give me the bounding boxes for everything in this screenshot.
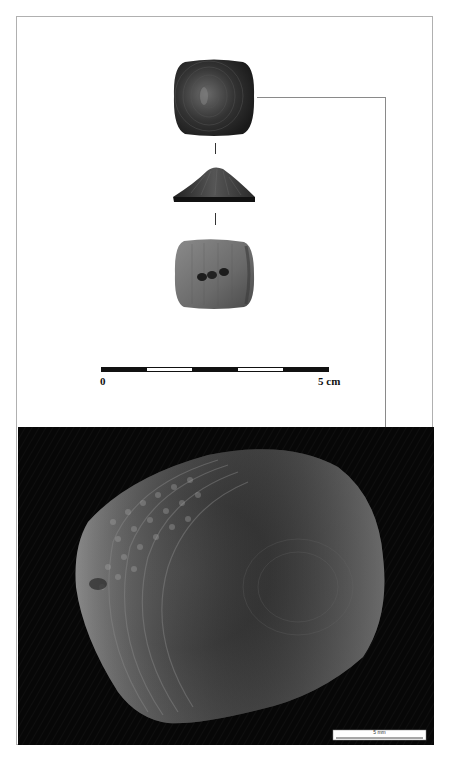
scale-segment bbox=[238, 367, 284, 372]
artefact-top-view bbox=[171, 58, 257, 138]
view-separator-tick bbox=[215, 213, 216, 225]
micrograph-image bbox=[18, 427, 434, 745]
artefact-micrograph: 5 mm bbox=[18, 427, 434, 745]
scale-segment bbox=[147, 367, 193, 372]
view-separator-tick bbox=[215, 143, 216, 154]
artefact-bottom-view bbox=[172, 238, 256, 310]
photo-scale-box: 5 mm bbox=[333, 730, 426, 740]
leader-line-horizontal bbox=[257, 97, 386, 98]
scale-end-label: 5 cm bbox=[318, 375, 340, 387]
scale-start-label: 0 bbox=[100, 375, 106, 387]
scale-bar-5cm bbox=[101, 367, 329, 372]
leader-line-vertical bbox=[385, 97, 386, 428]
scale-segment bbox=[101, 367, 147, 372]
scale-segment bbox=[283, 367, 329, 372]
scale-segment bbox=[192, 367, 238, 372]
photo-scale-label: 5 mm bbox=[333, 729, 426, 735]
artefact-side-view bbox=[171, 163, 257, 205]
